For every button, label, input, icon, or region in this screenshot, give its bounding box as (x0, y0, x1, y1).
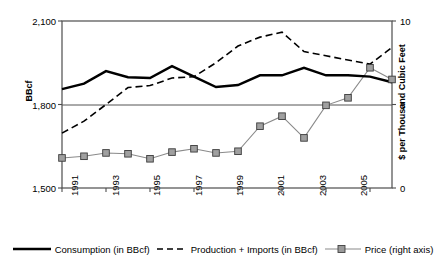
axis-tick-marks (58, 21, 396, 192)
plot-area (0, 0, 446, 265)
price-marker-1993 (103, 150, 110, 157)
price-marker-2005 (367, 64, 374, 71)
price-marker-1996 (169, 149, 176, 156)
price-marker-1998 (213, 150, 220, 157)
price-marker-2006 (389, 76, 396, 83)
legend-label-price: Price (right axis) (365, 244, 434, 255)
price-marker-1994 (125, 150, 132, 157)
price-marker-1992 (81, 153, 88, 160)
price-marker-1999 (235, 148, 242, 155)
price-marker-2004 (345, 95, 352, 102)
legend-label-production-imports: Production + Imports (in BBcf) (191, 244, 318, 255)
series-line-production-imports (62, 32, 392, 133)
price-marker-1991 (59, 155, 66, 162)
legend-label-consumption: Consumption (in BBcf) (55, 244, 150, 255)
series-line-consumption (62, 66, 392, 89)
price-marker-2001 (279, 113, 286, 120)
price-marker-2000 (257, 123, 264, 130)
price-marker-1997 (191, 145, 198, 152)
price-marker-2003 (323, 102, 330, 109)
price-marker-2002 (301, 135, 308, 142)
legend-swatch-price (325, 244, 361, 254)
legend-swatch-consumption (13, 244, 51, 254)
legend-item-production-imports: Production + Imports (in BBcf) (157, 244, 318, 255)
series-markers-price (59, 64, 396, 162)
series-line-price (62, 68, 392, 159)
legend-swatch-production-imports (157, 244, 187, 254)
chart-legend: Consumption (in BBcf) Production + Impor… (0, 239, 446, 259)
legend-item-consumption: Consumption (in BBcf) (13, 244, 150, 255)
chart-container: BBcf $ per Thousand Cubic Feet 2,100 1,8… (0, 0, 446, 265)
legend-item-price: Price (right axis) (325, 244, 434, 255)
price-marker-1995 (147, 155, 154, 162)
